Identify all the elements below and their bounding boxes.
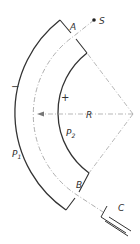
source-point (92, 18, 96, 22)
label-entrance: A (69, 22, 76, 32)
label-outer-polarity: − (11, 81, 19, 92)
label-source: S (99, 16, 105, 26)
label-outer-plate: P1 (12, 149, 21, 160)
label-exit: B (76, 180, 82, 190)
radial-line-top (87, 53, 133, 114)
label-collector: C (118, 203, 125, 213)
exit-cap-b (66, 173, 89, 210)
analyzer-diagram: A S R B C − + P1 P2 (0, 0, 140, 244)
inner-plate-p2 (58, 53, 89, 173)
collector-icon (101, 206, 131, 236)
label-radius: R (86, 110, 92, 120)
label-inner-plate: P2 (66, 128, 75, 139)
radial-line-bottom (89, 114, 133, 173)
label-inner-polarity: + (61, 92, 69, 103)
radius-arrowhead-icon (37, 112, 44, 117)
